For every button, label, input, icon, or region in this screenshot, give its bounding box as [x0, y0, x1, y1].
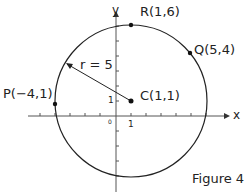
point-r: [129, 23, 133, 27]
figure-caption: Figure 4: [192, 172, 244, 185]
x-axis-label: x: [233, 109, 240, 121]
y-axis-label: y: [112, 4, 119, 16]
point-c: [129, 99, 134, 104]
x-tick-label: 1: [128, 120, 134, 129]
y-tick-label: 1: [108, 96, 114, 105]
radius-arrow-icon: [66, 63, 73, 69]
point-p: [53, 102, 57, 106]
point-q-label: Q(5,4): [194, 43, 235, 56]
point-p-label: P(−4,1): [3, 87, 53, 100]
x-axis-arrow-icon: [224, 113, 230, 119]
point-r-label: R(1,6): [140, 5, 180, 18]
point-q: [188, 51, 192, 55]
origin-label: 0: [108, 119, 112, 125]
point-c-label: C(1,1): [140, 89, 180, 102]
radius-label: r = 5: [80, 58, 113, 71]
